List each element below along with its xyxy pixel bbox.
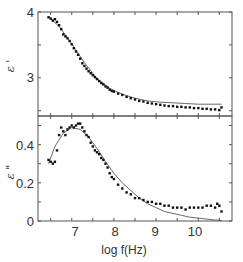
- xtick-8: 8: [111, 224, 118, 239]
- bottom-fit-curve: [49, 128, 222, 221]
- top-y-axis-title: ε ': [4, 60, 17, 72]
- x-axis-title: log f(Hz): [101, 243, 146, 257]
- top-fit-curve: [49, 17, 222, 105]
- top-ytick-4: 4: [27, 5, 34, 20]
- xtick-7: 7: [71, 224, 78, 239]
- top-ytick-3: 3: [27, 70, 34, 85]
- xtick-9: 9: [151, 224, 158, 239]
- bottom-ytick-0: 0: [27, 214, 34, 229]
- dielectric-chart: 4 3 0.4 0.2 0 7 8 9 10 log f(Hz) ε ' ε ": [0, 0, 243, 262]
- bottom-data-points: [47, 122, 222, 212]
- xtick-10: 10: [188, 224, 202, 239]
- bottom-ytick-0.2: 0.2: [16, 176, 34, 191]
- bottom-ytick-0.4: 0.4: [16, 138, 34, 153]
- bottom-panel-frame: [38, 116, 232, 221]
- top-data-points: [47, 16, 222, 111]
- bottom-y-axis-title: ε ": [4, 165, 17, 179]
